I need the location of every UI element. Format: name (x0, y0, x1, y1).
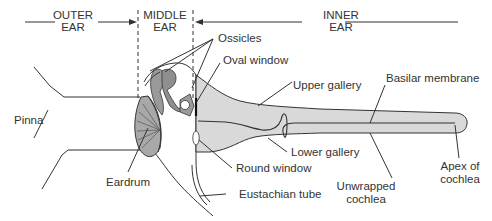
svg-text:EAR: EAR (153, 21, 177, 33)
label-unwrapped-cochlea-line2: cochlea (346, 193, 386, 205)
label-ossicles: Ossicles (218, 32, 262, 44)
label-upper-gallery: Upper gallery (293, 79, 362, 91)
arrow-right-icon (129, 19, 137, 25)
arrow-left-icon (195, 19, 203, 25)
label-basilar-membrane: Basilar membrane (386, 72, 479, 84)
label-eustachian-tube: Eustachian tube (239, 188, 321, 200)
region-header-inner-ear: INNER EAR (195, 9, 458, 33)
label-unwrapped-cochlea-line1: Unwrapped (337, 180, 396, 192)
label-pinna: Pinna (14, 114, 44, 126)
svg-text:INNER: INNER (323, 9, 359, 21)
svg-text:EAR: EAR (329, 21, 353, 33)
label-apex-line2: cochlea (440, 173, 480, 185)
region-header-middle-ear: MIDDLE EAR (143, 9, 187, 33)
round-window-shape (193, 131, 199, 145)
region-header-outer-ear: OUTER EAR (25, 9, 137, 33)
ear-diagram: OUTER EAR MIDDLE EAR INNER EAR (0, 0, 492, 221)
label-round-window: Round window (236, 162, 312, 174)
label-eardrum: Eardrum (106, 176, 150, 188)
label-lower-gallery: Lower gallery (291, 146, 360, 158)
label-apex-line1: Apex of (441, 160, 481, 172)
pinna-outline (34, 67, 213, 216)
svg-text:OUTER: OUTER (53, 9, 93, 21)
svg-text:EAR: EAR (61, 21, 85, 33)
svg-text:MIDDLE: MIDDLE (143, 9, 187, 21)
label-oval-window: Oval window (223, 54, 289, 66)
